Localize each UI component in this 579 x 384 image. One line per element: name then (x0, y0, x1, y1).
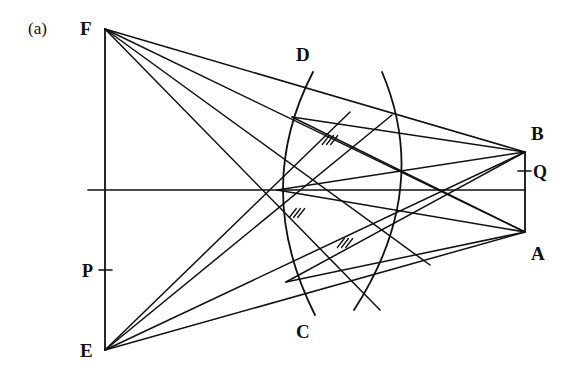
chord-bottom-span (286, 232, 525, 282)
vertex-label-F: F (80, 19, 92, 38)
ray-F-low (105, 29, 380, 310)
hatch-middle (289, 209, 304, 218)
tick-label-P: P (82, 262, 93, 280)
tick-label-Q: Q (533, 163, 547, 181)
arc-right (354, 72, 402, 310)
chord-A-left-hub (277, 190, 525, 232)
vertex-label-E: E (80, 341, 93, 360)
vertex-label-C: C (296, 322, 310, 341)
panel-label: (a) (28, 20, 47, 37)
geometry-figure: (a) F E B A D C P Q (0, 0, 579, 384)
ray-E-A (105, 232, 525, 350)
ray-E-top (105, 112, 350, 350)
vertex-label-A: A (531, 244, 545, 263)
ray-F-B (105, 29, 525, 152)
diagram-canvas (0, 0, 579, 384)
vertex-label-D: D (296, 45, 310, 64)
ray-E-up (105, 115, 392, 350)
vertex-label-B: B (531, 124, 544, 143)
